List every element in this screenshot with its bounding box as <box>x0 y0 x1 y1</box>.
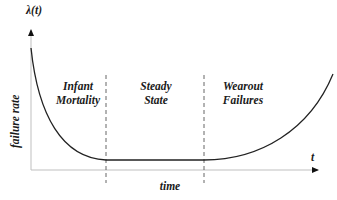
region-label-line2: Mortality <box>38 93 118 107</box>
y-axis-symbol: λ(t) <box>26 3 42 17</box>
region-label-line1: Infant <box>38 79 118 93</box>
region-label-line1: Wearout <box>203 79 283 93</box>
y-axis-label: failure rate <box>9 95 21 148</box>
region-label-line2: Failures <box>203 93 283 107</box>
x-axis-symbol: t <box>311 150 314 164</box>
x-axis-label: time <box>140 179 200 193</box>
region-label-line1: Steady <box>116 79 196 93</box>
region-infant-mortality: Infant Mortality <box>38 79 118 107</box>
region-wearout-failures: Wearout Failures <box>203 79 283 107</box>
region-steady-state: Steady State <box>116 79 196 107</box>
region-label-line2: State <box>116 93 196 107</box>
